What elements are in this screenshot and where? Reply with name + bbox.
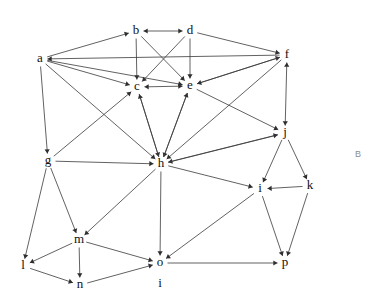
arrowhead-to-f <box>275 50 280 55</box>
edge-e-j <box>197 89 279 130</box>
edge-layer <box>23 28 308 283</box>
node-l[interactable]: l <box>21 257 25 272</box>
arrowhead-to-o <box>166 254 171 259</box>
edge-line <box>30 268 73 282</box>
node-b[interactable]: b <box>133 22 140 37</box>
edge-i-p <box>262 196 283 256</box>
arrowhead-to-d <box>178 28 182 33</box>
node-k[interactable]: k <box>307 177 314 192</box>
edge-n-o <box>87 264 153 283</box>
node-d[interactable]: d <box>187 22 194 37</box>
arrowhead-to-j <box>273 133 278 138</box>
edge-line <box>55 161 153 164</box>
edge-i-o <box>166 193 254 258</box>
edge-h-o <box>158 171 163 255</box>
arrowhead-to-c <box>126 92 131 97</box>
arrowhead-to-i <box>248 184 253 189</box>
stray-label-0: i <box>158 275 162 290</box>
edge-l-n <box>30 268 73 283</box>
node-n[interactable]: n <box>77 276 84 291</box>
edge-a-c <box>47 61 130 86</box>
edge-line <box>144 86 182 87</box>
edge-line <box>267 186 302 188</box>
edge-c-e <box>144 84 182 90</box>
edge-h-c <box>138 94 159 157</box>
edge-line <box>197 57 280 83</box>
arrowhead-to-c <box>144 84 148 89</box>
arrowhead-to-f <box>284 62 289 66</box>
arrowhead-to-o <box>148 257 153 262</box>
edge-line <box>262 196 282 256</box>
edge-k-i <box>267 186 302 191</box>
node-e[interactable]: e <box>187 77 193 92</box>
extra-label-layer: iB <box>158 149 361 290</box>
edge-line <box>86 242 153 261</box>
edge-h-j <box>168 133 277 162</box>
edge-line <box>168 135 277 162</box>
node-p[interactable]: p <box>282 254 289 269</box>
edge-line <box>166 193 254 258</box>
edge-line <box>164 93 188 157</box>
corner-watermark: B <box>355 149 361 159</box>
edge-line <box>287 193 307 256</box>
node-f[interactable]: f <box>285 46 290 61</box>
edge-h-e <box>164 93 189 157</box>
edge-d-e <box>187 39 192 79</box>
edge-line <box>136 38 137 79</box>
edge-line <box>197 33 279 53</box>
arrowhead-to-i <box>267 186 271 191</box>
node-j[interactable]: j <box>282 124 287 139</box>
node-i[interactable]: i <box>258 180 262 195</box>
edge-line <box>51 168 77 233</box>
edge-line <box>168 166 252 187</box>
edge-o-p <box>168 260 278 265</box>
edge-f-j <box>283 62 290 125</box>
edge-b-c <box>134 38 139 79</box>
arrowhead-to-o <box>148 264 153 269</box>
node-a[interactable]: a <box>37 50 43 65</box>
edge-line <box>41 66 48 153</box>
arrowhead-to-p <box>273 260 277 265</box>
edge-g-m <box>51 168 77 233</box>
edge-j-i <box>262 140 282 182</box>
edge-f-a <box>47 55 279 61</box>
edge-line <box>85 169 156 235</box>
edge-line <box>288 140 307 179</box>
edge-line <box>54 92 131 156</box>
edge-a-b <box>47 32 129 57</box>
edge-line <box>47 33 129 57</box>
edge-j-k <box>288 140 307 179</box>
edge-k-p <box>286 193 308 256</box>
edge-b-d <box>144 28 183 33</box>
graph-canvas: abcdefghjklmnopi iB <box>0 0 381 301</box>
edge-g-l <box>23 168 46 258</box>
edge-m-o <box>86 242 153 262</box>
edge-line <box>79 247 80 277</box>
node-o[interactable]: o <box>157 254 164 269</box>
edge-g-h <box>55 161 153 166</box>
node-layer: abcdefghjklmnopi <box>21 22 314 291</box>
edge-line <box>30 243 72 263</box>
arrowhead-to-h <box>149 161 153 166</box>
edge-h-m <box>85 169 156 235</box>
edge-line <box>285 62 287 125</box>
edge-m-n <box>77 247 82 277</box>
edge-h-i <box>168 166 252 189</box>
edge-line <box>87 265 153 283</box>
edge-a-g <box>41 66 50 153</box>
node-h[interactable]: h <box>158 155 165 170</box>
edge-line <box>160 171 161 255</box>
edge-line <box>25 168 47 258</box>
node-g[interactable]: g <box>45 152 52 167</box>
edge-m-l <box>30 243 72 263</box>
graph-figure: abcdefghjklmnopi iB <box>0 0 381 301</box>
edge-line <box>197 89 279 129</box>
edge-d-f <box>197 33 279 55</box>
arrowhead-to-b <box>144 28 148 33</box>
node-m[interactable]: m <box>74 231 84 246</box>
node-c[interactable]: c <box>134 78 140 93</box>
edge-g-c <box>54 92 131 156</box>
edge-f-e <box>197 57 280 85</box>
edge-line <box>263 140 282 182</box>
edge-line <box>47 55 279 59</box>
